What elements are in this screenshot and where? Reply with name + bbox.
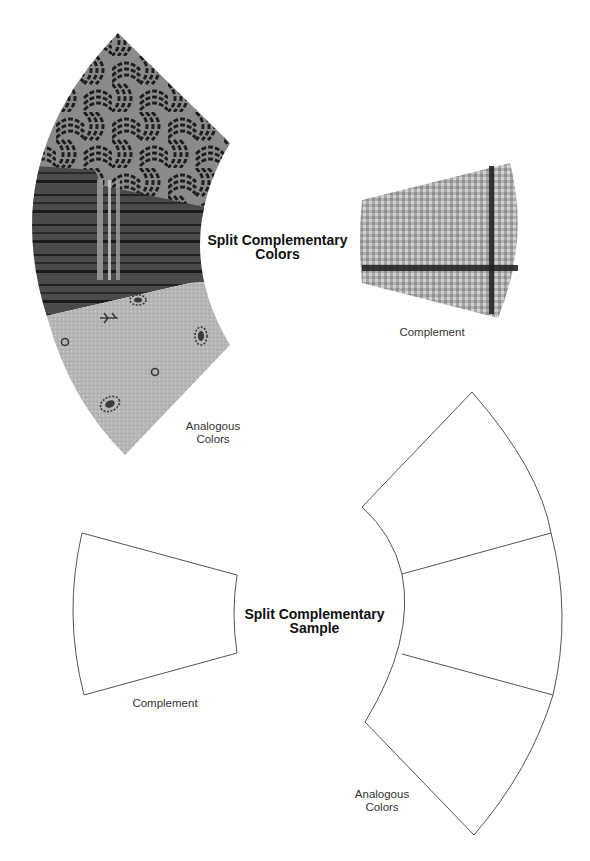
sample-divider-lower bbox=[402, 654, 553, 695]
top-analogous-line2: Colors bbox=[180, 433, 246, 446]
bottom-title-line2: Sample bbox=[242, 621, 387, 635]
top-analogous-label: Analogous Colors bbox=[180, 420, 246, 445]
bottom-title-line1: Split Complementary bbox=[242, 607, 387, 621]
gingham-fabric bbox=[360, 163, 518, 318]
top-title: Split Complementary Colors bbox=[205, 233, 350, 261]
plaid-light-stripe bbox=[108, 180, 111, 280]
bottom-analogous-line1: Analogous bbox=[349, 788, 415, 801]
sample-divider-upper bbox=[402, 533, 551, 574]
bottom-analogous-line2: Colors bbox=[349, 801, 415, 814]
bottom-complement-label: Complement bbox=[125, 697, 205, 710]
plaid-light-stripe bbox=[116, 180, 120, 280]
sample-complement-outline bbox=[73, 533, 237, 695]
top-title-line1: Split Complementary bbox=[205, 233, 350, 247]
top-complement-text: Complement bbox=[392, 326, 472, 339]
bottom-analogous-label: Analogous Colors bbox=[349, 788, 415, 813]
plaid-light-stripe bbox=[97, 180, 103, 280]
top-title-line2: Colors bbox=[205, 247, 350, 261]
bottom-title: Split Complementary Sample bbox=[242, 607, 387, 635]
top-complement-label: Complement bbox=[392, 326, 472, 339]
bottom-complement-text: Complement bbox=[125, 697, 205, 710]
top-analogous-line1: Analogous bbox=[180, 420, 246, 433]
sample-analogous-fan-outline bbox=[362, 392, 562, 835]
gingham-vertical-stripe bbox=[489, 166, 494, 314]
fabric-complement bbox=[360, 163, 518, 318]
diagram-canvas bbox=[0, 0, 590, 861]
gingham-horizontal-stripe bbox=[362, 265, 518, 271]
